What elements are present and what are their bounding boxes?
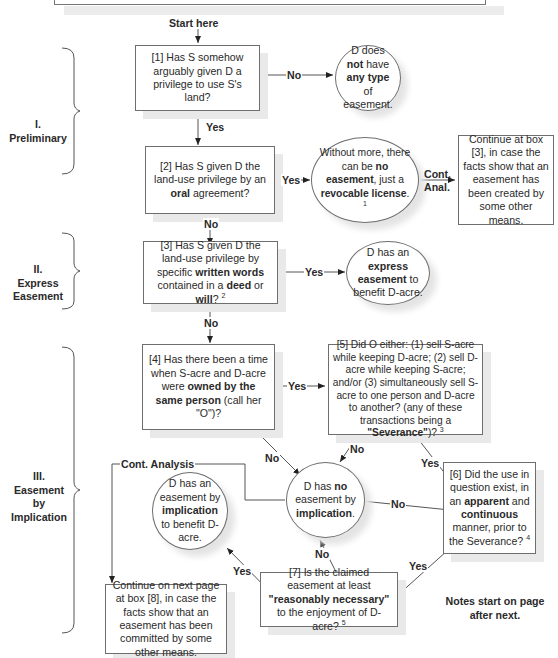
notes-footer: Notes start on page after next. — [440, 595, 550, 622]
outcome-express-easement: D has an express easement to benefit D-a… — [346, 241, 430, 305]
edge-label-b1-yes: Yes — [205, 121, 225, 133]
continue-box-3: Continue at box [3], in case the facts s… — [458, 135, 554, 225]
outcome-revocable-license: Without more, there can be no easement, … — [311, 137, 419, 223]
question-box-5: [5] Did O either: (1) sell S-acre while … — [328, 344, 483, 435]
edge-label-b7-no: No — [314, 548, 330, 560]
edge-label-b4-no: No — [264, 452, 280, 464]
edge-label-b6-no: No — [390, 498, 406, 510]
edge-label-b2-no: No — [203, 218, 219, 230]
outcome-implied-easement: D has an easement by implication to bene… — [152, 472, 228, 550]
edge-label-cont-anal: Cont. Anal. — [423, 168, 455, 194]
section-title: Express Easement — [8, 277, 68, 304]
section-numeral: II. — [8, 263, 68, 277]
question-box-1: [1] Has S somehow arguably given D a pri… — [135, 45, 260, 111]
start-here-label: Start here — [168, 17, 219, 29]
question-box-6: [6] Did the use in question exist, in an… — [443, 462, 536, 554]
section-express-easement: II. Express Easement — [8, 263, 68, 304]
connector-lines — [0, 0, 558, 658]
edge-label-b4-yes: Yes — [287, 380, 307, 392]
section-numeral: I. — [8, 118, 68, 132]
box-1-text: [1] Has S somehow arguably given D a pri… — [142, 51, 253, 105]
outcome-no-easement: D does not have any type of easement. — [335, 45, 401, 111]
section-title: Preliminary — [8, 132, 68, 146]
edge-label-b5-yes: Yes — [420, 457, 440, 469]
edge-label-cont-analysis: Cont. Analysis — [120, 458, 195, 470]
section-preliminary: I. Preliminary — [8, 118, 68, 145]
section-numeral: III. — [6, 470, 72, 484]
outcome-no-implied-easement: D has no easement by implication. — [286, 462, 365, 538]
question-box-2: [2] Has S given D the land-use privilege… — [145, 146, 275, 214]
edge-label-b2-yes: Yes — [281, 174, 301, 186]
edge-label-b7-yes: Yes — [232, 565, 252, 577]
edge-label-b3-no: No — [203, 317, 219, 329]
question-box-3: [3] Has S given D the land-use privilege… — [143, 241, 278, 304]
section-easement-by-implication: III. EasementbyImplication — [6, 470, 72, 524]
continue-next-page-box: Continue on next page at box [8], in cas… — [105, 584, 227, 654]
question-box-4: [4] Has there been a time when S-acre an… — [142, 344, 275, 430]
edge-label-b1-no: No — [286, 69, 302, 81]
edge-label-b5-no: No — [349, 443, 365, 455]
question-box-7: [7] Is the claimed easement at least "re… — [260, 572, 398, 627]
edge-label-b3-yes: Yes — [304, 266, 324, 278]
edge-label-b6-yes: Yes — [408, 560, 428, 572]
